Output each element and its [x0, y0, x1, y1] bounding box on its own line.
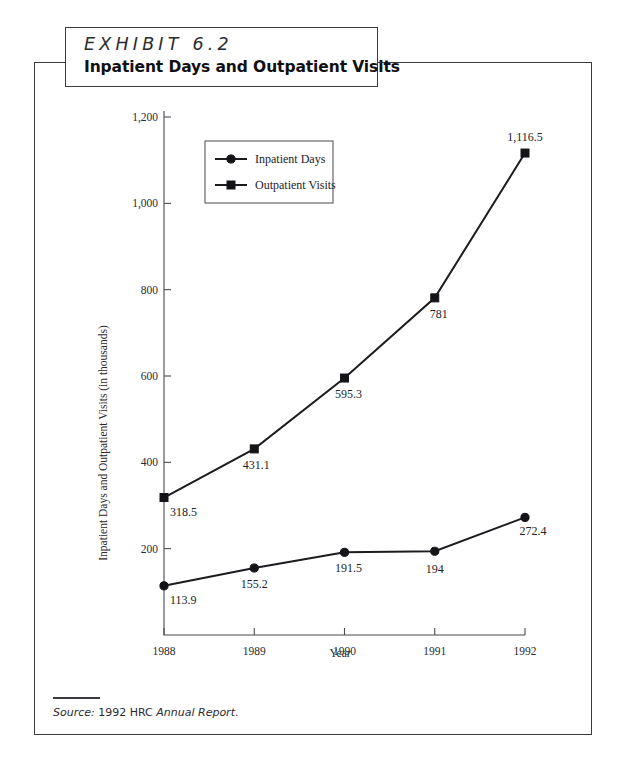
source-middle: 1992 HRC — [95, 706, 157, 719]
x-axis-title: Year — [329, 647, 350, 659]
source-publication: Annual Report — [156, 706, 235, 719]
y-tick-label: 1,000 — [132, 197, 158, 210]
source-label: Source: — [53, 706, 95, 719]
y-tick-label: 800 — [141, 284, 159, 296]
square-marker — [160, 494, 168, 502]
circle-marker — [431, 547, 439, 555]
data-point-label: 272.4 — [520, 524, 547, 538]
data-point-label: 318.5 — [170, 505, 197, 519]
exhibit-frame: 2004006008001,0001,200 19881989199019911… — [34, 62, 592, 735]
x-axis-ticks — [164, 628, 525, 635]
square-marker — [521, 149, 529, 157]
x-tick-label: 1989 — [243, 645, 266, 657]
source-divider-rule — [53, 697, 100, 699]
y-tick-label: 200 — [141, 543, 159, 555]
circle-marker — [227, 155, 235, 163]
square-marker — [341, 374, 349, 382]
x-tick-label: 1992 — [514, 645, 537, 657]
chart-legend: Inpatient DaysOutpatient Visits — [205, 141, 336, 203]
legend-entry-label: Outpatient Visits — [255, 178, 336, 192]
series-line-outpatient-visits — [164, 153, 525, 497]
data-point-label: 194 — [426, 562, 444, 576]
exhibit-number: EXHIBIT 6.2 — [84, 34, 377, 56]
source-text: Source: 1992 HRC Annual Report. — [53, 706, 473, 719]
y-axis-tick-labels: 2004006008001,0001,200 — [132, 111, 158, 555]
circle-marker — [160, 582, 168, 590]
data-point-label: 155.2 — [241, 577, 268, 591]
y-tick-label: 400 — [141, 456, 159, 468]
data-series-group — [160, 149, 529, 590]
x-tick-label: 1991 — [423, 645, 446, 657]
y-axis-ticks — [164, 117, 171, 549]
line-chart: 2004006008001,0001,200 19881989199019911… — [35, 63, 593, 736]
source-period: . — [235, 706, 239, 719]
x-tick-label: 1988 — [153, 645, 176, 657]
legend-entry-label: Inpatient Days — [255, 152, 326, 166]
data-point-label: 191.5 — [335, 561, 362, 575]
data-point-label: 1,116.5 — [507, 130, 543, 144]
data-point-label: 113.9 — [170, 593, 197, 607]
chart-plot-area: 2004006008001,0001,200 19881989199019911… — [35, 63, 593, 736]
y-tick-label: 600 — [141, 370, 159, 382]
exhibit-title-box: EXHIBIT 6.2 Inpatient Days and Outpatien… — [65, 27, 378, 87]
circle-marker — [250, 564, 258, 572]
square-marker — [227, 181, 235, 189]
data-point-label: 595.3 — [335, 387, 362, 401]
data-point-label: 781 — [430, 307, 448, 321]
legend-box — [205, 141, 333, 203]
square-marker — [250, 445, 258, 453]
source-note: Source: 1992 HRC Annual Report. — [53, 697, 473, 719]
data-point-label: 431.1 — [243, 458, 270, 472]
square-marker — [431, 294, 439, 302]
y-tick-label: 1,200 — [132, 111, 158, 124]
circle-marker — [521, 513, 529, 521]
circle-marker — [340, 548, 348, 556]
y-axis-title: Inpatient Days and Outpatient Visits (in… — [97, 325, 110, 561]
exhibit-title: Inpatient Days and Outpatient Visits — [84, 57, 377, 78]
